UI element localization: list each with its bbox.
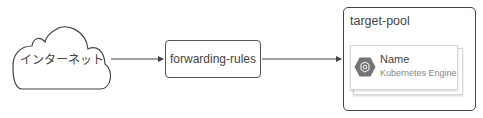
forwarding-rules-label: forwarding-rules	[170, 52, 256, 66]
internet-label: インターネット	[12, 50, 112, 67]
kubernetes-engine-hexagon-icon	[354, 57, 376, 77]
target-pool-label: target-pool	[350, 14, 410, 28]
card-service-label: Kubernetes Engine	[380, 68, 457, 78]
forwarding-rules-node[interactable]: forwarding-rules	[165, 40, 261, 78]
card-name: Name	[380, 53, 409, 65]
